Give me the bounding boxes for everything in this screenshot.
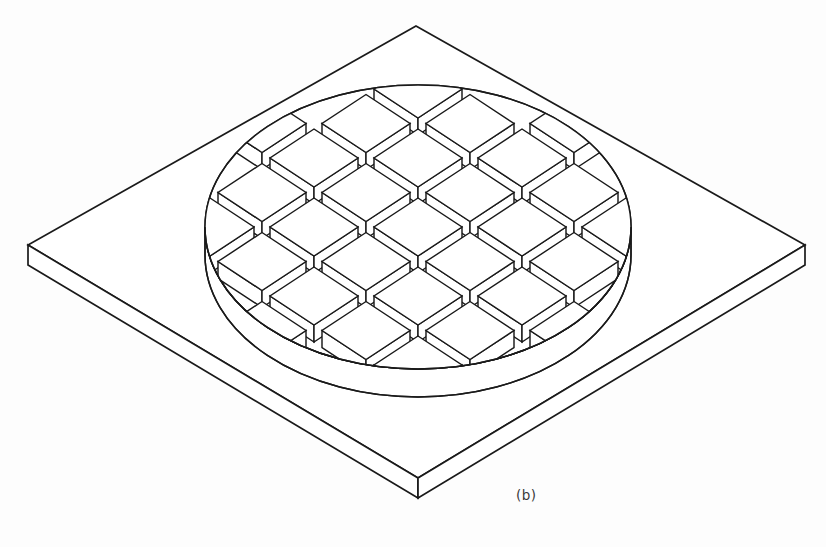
figure-canvas: (b): [0, 0, 826, 547]
figure-caption: (b): [516, 487, 536, 503]
isometric-drawing-svg: [0, 0, 826, 547]
